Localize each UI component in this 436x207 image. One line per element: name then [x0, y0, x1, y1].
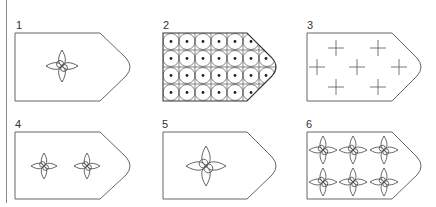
star-icon	[309, 136, 337, 164]
star-icon	[339, 168, 367, 196]
star-icon	[309, 168, 337, 196]
star-icon	[186, 146, 226, 186]
panel-2	[163, 33, 280, 101]
epaulette-outline	[15, 33, 130, 101]
star-icon	[370, 136, 398, 164]
epaulette-outline	[307, 132, 421, 199]
epaulette-outline	[163, 132, 276, 199]
star-icon	[46, 50, 78, 82]
star-icon	[370, 168, 398, 196]
panel-label-5: 5	[162, 119, 168, 130]
cross-icons	[309, 40, 407, 95]
star-icon	[74, 153, 100, 179]
star-icon	[31, 153, 57, 179]
panel-5	[163, 132, 276, 199]
panel-label-1: 1	[16, 20, 22, 31]
panel-4	[15, 132, 130, 199]
panel-6	[307, 132, 421, 199]
panel-label-2: 2	[163, 20, 169, 31]
panel-label-4: 4	[15, 119, 21, 130]
star-icon	[339, 136, 367, 164]
panel-label-6: 6	[306, 119, 312, 130]
panel-3	[307, 33, 421, 101]
panel-label-3: 3	[307, 20, 313, 31]
panel-1	[15, 33, 130, 101]
epaulette-diagram	[0, 0, 436, 207]
